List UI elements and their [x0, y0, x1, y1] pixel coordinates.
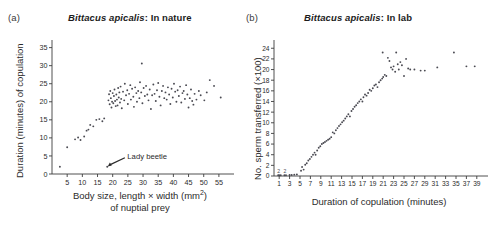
y-tick-label: 8 — [266, 130, 270, 137]
y-tick-label: 25 — [40, 79, 48, 88]
panel-b-xlabel: Duration of copulation (minutes) — [284, 196, 474, 208]
data-point — [367, 92, 369, 94]
data-point — [129, 84, 131, 86]
data-point — [209, 79, 211, 81]
data-point — [333, 132, 335, 134]
panel-a-ylabel: Duration (minutes) of copulation — [14, 43, 26, 178]
data-point — [151, 94, 153, 96]
data-point — [163, 97, 165, 99]
data-point — [112, 92, 114, 94]
x-tick-label: 10 — [78, 178, 86, 187]
data-point — [369, 89, 371, 91]
point-count-label: 2 — [277, 168, 280, 174]
y-tick-label: 0 — [266, 172, 270, 179]
data-point — [190, 89, 192, 91]
data-point — [321, 143, 323, 145]
data-point — [110, 97, 112, 99]
data-point — [351, 110, 353, 112]
data-point — [314, 152, 316, 154]
panel-b: (b) Bittacus apicalis: In lab 0246810121… — [244, 0, 492, 230]
data-point — [59, 166, 61, 168]
data-point — [346, 115, 348, 117]
data-point — [385, 75, 387, 77]
data-point — [358, 101, 360, 103]
data-point — [335, 129, 337, 131]
data-point — [309, 158, 311, 160]
data-point — [375, 84, 377, 86]
data-point — [116, 99, 118, 101]
data-point — [387, 57, 389, 59]
data-point — [169, 103, 171, 105]
data-point — [373, 85, 375, 87]
data-point — [148, 99, 150, 101]
x-tick-label: 35 — [452, 180, 460, 187]
data-point — [80, 139, 82, 141]
data-point — [184, 98, 186, 100]
y-tick-label: 30 — [40, 61, 48, 70]
x-tick-label: 3 — [288, 180, 292, 187]
data-point — [183, 90, 185, 92]
data-point — [405, 58, 407, 60]
data-point — [330, 136, 332, 138]
data-point — [87, 129, 89, 131]
data-point — [361, 101, 363, 103]
data-point — [154, 93, 156, 95]
data-point — [133, 106, 135, 108]
data-point — [77, 137, 79, 139]
data-point — [160, 104, 162, 106]
data-point — [136, 101, 138, 103]
data-point — [347, 113, 349, 115]
y-tick-label: 4 — [266, 151, 270, 158]
data-point — [171, 88, 173, 90]
x-tick-label: 15 — [348, 180, 356, 187]
panel-b-ylabel: No. sperm transferred (×100) — [252, 57, 264, 180]
y-tick-label: 0 — [44, 170, 48, 179]
data-point — [156, 89, 158, 91]
data-point — [152, 83, 154, 85]
data-point — [319, 145, 321, 147]
data-point — [139, 81, 141, 83]
data-point — [146, 94, 148, 96]
data-point — [144, 95, 146, 97]
data-point — [167, 86, 169, 88]
data-point — [111, 107, 113, 109]
data-point — [397, 63, 399, 65]
data-point — [195, 99, 197, 101]
data-point — [306, 162, 308, 164]
y-tick-label: 20 — [40, 97, 48, 106]
data-point — [117, 87, 119, 89]
annotation-arrow-line — [109, 158, 125, 165]
y-tick-label: 15 — [40, 115, 48, 124]
data-point — [149, 89, 151, 91]
data-point — [301, 166, 303, 168]
x-tick-label: 11 — [328, 180, 335, 187]
data-point — [123, 99, 125, 101]
x-tick-label: 9 — [319, 180, 323, 187]
data-point — [349, 115, 351, 117]
data-point — [118, 91, 120, 93]
data-point — [109, 103, 111, 105]
data-point — [380, 79, 382, 81]
data-point — [378, 81, 380, 83]
data-point — [128, 93, 130, 95]
data-point — [135, 92, 137, 94]
x-tick-label: 5 — [298, 180, 302, 187]
data-point — [155, 100, 157, 102]
data-point — [315, 154, 317, 156]
x-tick-label: 37 — [463, 180, 471, 187]
data-point — [185, 84, 187, 86]
data-point — [303, 169, 305, 171]
data-point — [390, 66, 392, 68]
data-point — [173, 83, 175, 85]
data-point — [343, 120, 345, 122]
data-point — [453, 52, 455, 54]
data-point — [120, 86, 122, 88]
x-tick-label: 50 — [200, 178, 208, 187]
data-point — [107, 99, 109, 101]
data-point — [166, 99, 168, 101]
data-point — [162, 85, 164, 87]
data-point — [101, 120, 103, 122]
x-tick-label: 1 — [277, 180, 281, 187]
data-point — [130, 99, 132, 101]
data-point — [280, 174, 282, 176]
